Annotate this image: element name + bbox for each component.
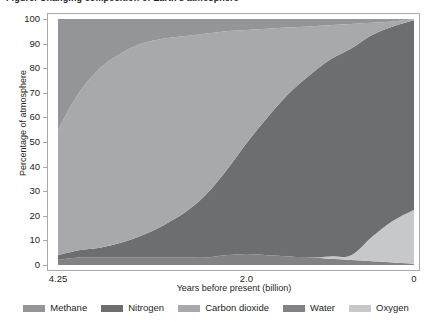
y-tick-label: 20 [10, 211, 40, 220]
legend-item-nitrogen[interactable]: Nitrogen [101, 303, 164, 313]
y-tick-label: 60 [10, 112, 40, 121]
legend-item-carbon-dioxide[interactable]: Carbon dioxide [178, 303, 269, 313]
y-tick-label: 10 [10, 235, 40, 244]
y-tick-label: 80 [10, 63, 40, 72]
y-tick-mark [43, 240, 48, 241]
stacked-area-plot [58, 19, 414, 265]
legend-item-water[interactable]: Water [283, 303, 335, 313]
legend-swatch-icon [101, 305, 123, 312]
y-tick-label: 40 [10, 162, 40, 171]
legend-item-methane[interactable]: Methane [23, 303, 87, 313]
legend-swatch-icon [349, 305, 371, 312]
legend-label: Nitrogen [128, 303, 164, 313]
y-tick-mark [43, 68, 48, 69]
legend-label: Water [310, 303, 335, 313]
y-tick-mark [43, 216, 48, 217]
y-tick-label: 70 [10, 88, 40, 97]
figure-container: Figure: Changing composition of Earth's … [0, 0, 432, 333]
x-axis-title: Years before present (billion) [47, 283, 421, 293]
y-tick-mark [43, 44, 48, 45]
y-tick-mark [43, 265, 48, 266]
legend-swatch-icon [23, 305, 45, 312]
x-tick-label: 0 [394, 274, 432, 283]
y-tick-mark [43, 142, 48, 143]
figure-title: Figure: Changing composition of Earth's … [6, 0, 239, 3]
x-tick-label: 2.0 [226, 274, 266, 283]
y-tick-mark [43, 191, 48, 192]
y-tick-label: 90 [10, 39, 40, 48]
legend-item-oxygen[interactable]: Oxygen [349, 303, 409, 313]
y-tick-mark [43, 117, 48, 118]
legend-label: Carbon dioxide [205, 303, 269, 313]
y-tick-label: 100 [10, 14, 40, 23]
y-tick-mark [43, 19, 48, 20]
legend-label: Oxygen [376, 303, 409, 313]
y-tick-label: 50 [10, 137, 40, 146]
x-tick-label: 4.25 [38, 274, 78, 283]
y-tick-label: 0 [10, 260, 40, 269]
chart-legend: MethaneNitrogenCarbon dioxideWaterOxygen [0, 303, 432, 313]
legend-swatch-icon [283, 305, 305, 312]
legend-label: Methane [50, 303, 87, 313]
y-tick-mark [43, 167, 48, 168]
legend-swatch-icon [178, 305, 200, 312]
y-tick-mark [43, 93, 48, 94]
y-tick-label: 30 [10, 186, 40, 195]
